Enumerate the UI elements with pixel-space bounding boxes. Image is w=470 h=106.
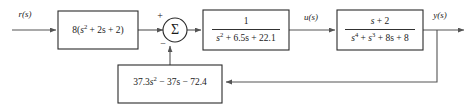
feedback-coefficient: 37.3 [133, 77, 150, 87]
feedback-rest: − 37s − 72.4 [157, 77, 207, 87]
plant-den-mid: + [358, 33, 368, 43]
sum-sign-positive: + [157, 10, 163, 21]
plant-num-rest: + 2 [374, 16, 389, 26]
block-feedback[interactable]: 37.3s2 − 37s − 72.4 [118, 65, 222, 103]
block-prefilter[interactable]: 8(s2 + 2s + 2) [58, 11, 138, 49]
block-diagram-canvas: r(s) u(s) y(s) 8(s2 + 2s + 2) Σ + − 1 s2… [0, 0, 470, 106]
sigma-icon: Σ [171, 22, 179, 37]
compensator-den-rest: + 6.5s + 22.1 [223, 33, 276, 43]
feedback-expression: 37.3s2 − 37s − 72.4 [133, 75, 207, 87]
signal-label-output: y(s) [432, 10, 447, 20]
block-compensator[interactable]: 1 s2 + 6.5s + 22.1 [203, 10, 289, 50]
prefilter-gain: 8( [72, 25, 80, 36]
compensator-numerator: 1 [244, 16, 249, 26]
prefilter-rest: + 2s + 2) [87, 25, 124, 36]
plant-den-rest: + 8s + 8 [375, 33, 409, 43]
block-plant[interactable]: s + 2 s4 + s3 + 8s + 8 [337, 10, 423, 50]
block-diagram-svg: r(s) u(s) y(s) 8(s2 + 2s + 2) Σ + − 1 s2… [0, 0, 470, 106]
sum-sign-negative: − [160, 38, 166, 49]
compensator-denominator: s2 + 6.5s + 22.1 [216, 31, 276, 43]
signal-label-input: r(s) [19, 9, 32, 19]
plant-denominator: s4 + s3 + 8s + 8 [351, 31, 409, 43]
signal-label-intermediate: u(s) [304, 12, 318, 22]
plant-numerator: s + 2 [371, 16, 390, 26]
block-prefilter-expression: 8(s2 + 2s + 2) [72, 23, 124, 36]
